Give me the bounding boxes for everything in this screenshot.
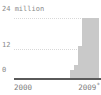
area-series-path (70, 18, 99, 78)
x-axis-label-start: 2000 (14, 83, 32, 92)
x-axis-label-end: 2009* (78, 83, 100, 92)
x-axis-line (14, 78, 101, 80)
chart-thumbnail: 24 million 12 0 2000 2009* (0, 0, 101, 95)
x-axis-labels: 2000 2009* (0, 82, 101, 95)
y-axis-label-mid: 12 (2, 41, 10, 49)
plot-area: 24 million 12 0 (0, 0, 101, 79)
footnote-asterisk: * (96, 81, 100, 88)
y-axis-label-zero: 0 (2, 66, 6, 74)
x-axis-label-end-text: 2009 (78, 83, 96, 92)
y-axis-label-top: 24 million (2, 5, 44, 13)
